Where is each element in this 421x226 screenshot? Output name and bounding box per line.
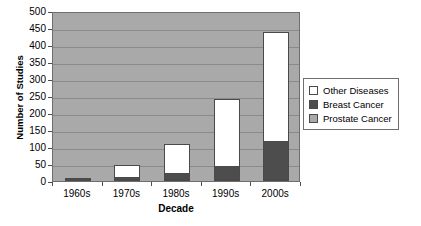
x-axis-tick-mark — [151, 182, 152, 186]
stacked-bar[interactable] — [263, 32, 289, 181]
bar-segment-prostate-cancer[interactable] — [214, 179, 240, 181]
bar-segment-breast-cancer[interactable] — [214, 166, 240, 180]
y-axis-tick-label: 450 — [16, 24, 46, 34]
x-axis-tick-marks — [52, 182, 300, 187]
legend-label: Prostate Cancer — [323, 114, 392, 123]
y-axis-tick-label: 50 — [16, 160, 46, 170]
legend-label: Breast Cancer — [323, 100, 384, 109]
stacked-bar[interactable] — [164, 144, 190, 181]
stacked-bar[interactable] — [65, 178, 91, 181]
x-axis-tick-mark — [300, 182, 301, 186]
x-axis-title: Decade — [52, 203, 300, 214]
x-axis-tick-mark — [52, 182, 53, 186]
x-axis-tick-label: 1970s — [113, 188, 140, 199]
y-axis-tick-label: 350 — [16, 58, 46, 68]
bar-segment-other-diseases[interactable] — [263, 32, 289, 142]
bar-group — [152, 13, 202, 181]
stacked-bar[interactable] — [214, 99, 240, 181]
y-axis-tick-label: 400 — [16, 41, 46, 51]
legend-swatch-icon — [309, 86, 318, 95]
bar-segment-prostate-cancer[interactable] — [114, 179, 140, 181]
stacked-bar[interactable] — [114, 165, 140, 181]
bar-segment-prostate-cancer[interactable] — [65, 179, 91, 181]
y-axis-tick-label: 0 — [16, 177, 46, 187]
y-axis-tick-label: 200 — [16, 109, 46, 119]
bar-segment-prostate-cancer[interactable] — [263, 179, 289, 181]
bar-segment-other-diseases[interactable] — [164, 144, 190, 174]
x-axis-tick-mark — [201, 182, 202, 186]
x-axis-tick-label: 2000s — [262, 188, 289, 199]
stacked-bar-chart: Number of Studies 0501001502002503003504… — [0, 0, 421, 226]
legend-label: Other Diseases — [323, 86, 388, 95]
bar-segment-other-diseases[interactable] — [214, 99, 240, 167]
y-axis-tick-label: 300 — [16, 75, 46, 85]
legend-item[interactable]: Prostate Cancer — [309, 111, 392, 125]
legend-item[interactable]: Other Diseases — [309, 83, 392, 97]
y-axis-tick-label: 250 — [16, 92, 46, 102]
legend-swatch-icon — [309, 114, 318, 123]
y-axis-tick-label: 150 — [16, 126, 46, 136]
x-axis-tick-labels: 1960s1970s1980s1990s2000s — [52, 188, 300, 202]
bar-group — [251, 13, 301, 181]
bar-group — [53, 13, 103, 181]
bar-group — [202, 13, 252, 181]
bar-series-group — [53, 13, 299, 181]
legend: Other DiseasesBreast CancerProstate Canc… — [303, 78, 399, 130]
x-axis-tick-label: 1990s — [212, 188, 239, 199]
x-axis-tick-label: 1960s — [63, 188, 90, 199]
x-axis-tick-mark — [250, 182, 251, 186]
plot-area — [52, 12, 300, 182]
y-axis-tick-labels: 050100150200250300350400450500 — [16, 0, 46, 226]
legend-swatch-icon — [309, 100, 318, 109]
y-axis-tick-label: 100 — [16, 143, 46, 153]
y-axis-tick-label: 500 — [16, 7, 46, 17]
bar-segment-breast-cancer[interactable] — [263, 141, 289, 180]
x-axis-tick-mark — [102, 182, 103, 186]
bar-group — [103, 13, 153, 181]
legend-item[interactable]: Breast Cancer — [309, 97, 392, 111]
x-axis-tick-label: 1980s — [162, 188, 189, 199]
bar-segment-prostate-cancer[interactable] — [164, 179, 190, 181]
